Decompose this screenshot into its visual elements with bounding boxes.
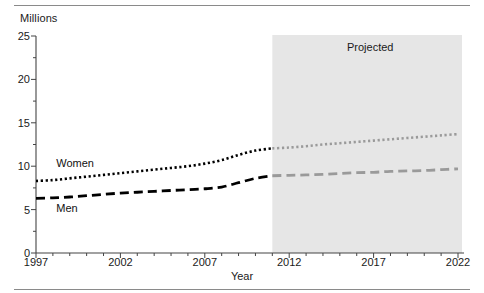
annotation-men: Men: [56, 202, 77, 214]
y-tick-label-10: 10: [4, 160, 30, 172]
y-tick-label-20: 20: [4, 73, 30, 85]
y-tick-label-15: 15: [4, 117, 30, 129]
chart-figure: Millions 0510152025 19972002200720122017…: [0, 0, 484, 293]
x-tick-label-2022: 2022: [446, 256, 470, 268]
x-tick-label-1997: 1997: [24, 256, 48, 268]
chart-plot-area: [0, 0, 484, 293]
y-tick-label-5: 5: [4, 204, 30, 216]
projected-shaded-band-layer: [272, 35, 462, 253]
x-tick-label-2007: 2007: [193, 256, 217, 268]
x-axis-title: Year: [0, 270, 484, 282]
x-tick-label-2002: 2002: [108, 256, 132, 268]
y-tick-label-25: 25: [4, 30, 30, 42]
x-tick-label-2012: 2012: [277, 256, 301, 268]
annotation-projected: Projected: [347, 41, 393, 53]
annotation-women: Women: [56, 157, 94, 169]
x-tick-label-2017: 2017: [361, 256, 385, 268]
